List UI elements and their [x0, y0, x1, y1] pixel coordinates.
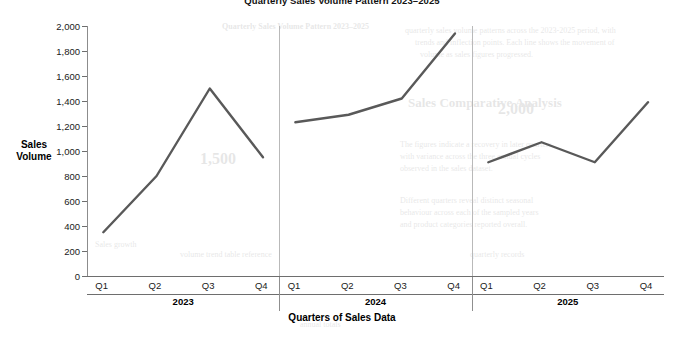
- x-axis-tick-label: Q3: [394, 280, 407, 291]
- year-panel-2025: [472, 26, 664, 276]
- y-axis-tick-label: 1,600: [36, 71, 80, 82]
- y-axis-tick-mark: [82, 76, 87, 77]
- x-axis-tick-label: Q4: [640, 280, 653, 291]
- y-axis-tick-label: 200: [36, 246, 80, 257]
- y-axis-tick-mark: [82, 201, 87, 202]
- x-axis-title: Quarters of Sales Data: [0, 312, 684, 323]
- y-axis-tick-label: 1,800: [36, 46, 80, 57]
- chart-title: Quarterly Sales Volume Pattern 2023–2025: [0, 0, 684, 6]
- x-axis-tick-label: Q1: [480, 280, 493, 291]
- y-axis-tick-label: 600: [36, 196, 80, 207]
- year-panel-2023: [87, 26, 279, 276]
- x-axis-tick-label: Q2: [533, 280, 546, 291]
- y-axis-tick-label: 0: [36, 271, 80, 282]
- x-axis-tick-label: Q1: [288, 280, 301, 291]
- x-axis-year-labels: 202320242025: [87, 295, 664, 311]
- x-axis-tick-label: Q2: [341, 280, 354, 291]
- year-group-label: 2023: [87, 296, 279, 307]
- y-axis-tick-label: 1,200: [36, 121, 80, 132]
- x-axis-quarter-labels: Q1Q2Q3Q4Q1Q2Q3Q4Q1Q2Q3Q4: [87, 277, 664, 295]
- year-group-separator: [279, 277, 280, 311]
- series-line-2024: [279, 26, 471, 276]
- y-axis-tick-label: 1,000: [36, 146, 80, 157]
- y-axis-tick-labels: 2,0001,8001,6001,4001,2001,0008006004002…: [18, 0, 80, 338]
- x-axis-tick-label: Q2: [149, 280, 162, 291]
- year-group-label: 2025: [472, 296, 664, 307]
- y-axis-tick-mark: [82, 151, 87, 152]
- series-line-2023: [87, 26, 279, 276]
- y-axis-tick-mark: [82, 126, 87, 127]
- plot-area: [87, 26, 664, 276]
- y-axis-tick-label: 800: [36, 171, 80, 182]
- y-axis-tick-mark: [82, 101, 87, 102]
- panel-divider: [279, 26, 280, 276]
- year-group-separator: [472, 277, 473, 311]
- y-axis-tick-mark: [82, 251, 87, 252]
- sales-volume-chart: Quarterly Sales Volume Pattern 2023–2025…: [0, 0, 684, 338]
- year-panel-2024: [279, 26, 471, 276]
- y-axis-tick-mark: [82, 226, 87, 227]
- panel-divider: [472, 26, 473, 276]
- y-axis-tick-mark: [82, 276, 87, 277]
- x-axis-tick-label: Q3: [202, 280, 215, 291]
- x-axis-tick-label: Q1: [95, 280, 108, 291]
- y-axis-tick-mark: [82, 51, 87, 52]
- y-axis-tick-mark: [82, 176, 87, 177]
- y-axis-tick-label: 1,400: [36, 96, 80, 107]
- year-group-label: 2024: [279, 296, 471, 307]
- y-axis-tick-label: 400: [36, 221, 80, 232]
- y-axis-tick-mark: [82, 26, 87, 27]
- series-line-2025: [472, 26, 664, 276]
- y-axis-tick-label: 2,000: [36, 21, 80, 32]
- x-axis-tick-label: Q3: [586, 280, 599, 291]
- x-axis-tick-label: Q4: [255, 280, 268, 291]
- x-axis-tick-label: Q4: [447, 280, 460, 291]
